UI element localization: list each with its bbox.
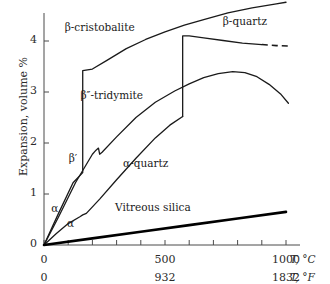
curve-annotation: β-cristobalite bbox=[65, 21, 135, 33]
y-tick-label: 0 bbox=[30, 237, 37, 250]
x-tick-label-celsius: 0 bbox=[41, 253, 48, 266]
curve-annotation: β′ bbox=[69, 152, 77, 164]
y-tick-label: 4 bbox=[30, 33, 37, 46]
y-axis-title: Expansion, volume % bbox=[17, 42, 30, 192]
curve-annotation: α-quartz bbox=[123, 157, 168, 169]
curve-annotation: β-quartz bbox=[223, 15, 267, 27]
x-axis-unit-fahrenheit: T, °F bbox=[290, 271, 315, 283]
y-tick-label: 1 bbox=[30, 186, 37, 199]
curve-annotation: α bbox=[51, 202, 58, 214]
y-tick-label: 3 bbox=[30, 84, 37, 97]
x-tick-label-fahrenheit: 932 bbox=[155, 271, 176, 284]
x-tick-label-celsius: 500 bbox=[155, 253, 176, 266]
curve-annotation: α bbox=[67, 217, 74, 229]
series-dashed-extension bbox=[262, 45, 291, 47]
chart-plot-area bbox=[0, 0, 330, 284]
y-tick-label: 2 bbox=[30, 135, 37, 148]
x-tick-label-fahrenheit: 0 bbox=[41, 271, 48, 284]
curve-annotation: Vitreous silica bbox=[115, 201, 191, 213]
thermal-expansion-chart: Expansion, volume % 01234050010000932183… bbox=[0, 0, 330, 284]
curve-annotation: β″-tridymite bbox=[80, 89, 143, 101]
series--quartz bbox=[44, 116, 183, 245]
x-axis-unit-celsius: T, °C bbox=[290, 253, 315, 265]
series--quartz bbox=[183, 36, 262, 117]
